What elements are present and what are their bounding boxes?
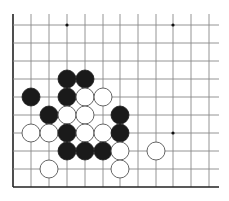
black-stone[interactable] [94, 142, 112, 160]
white-stone[interactable] [111, 142, 129, 160]
go-board[interactable] [0, 0, 229, 201]
black-stone[interactable] [111, 106, 129, 124]
black-stone[interactable] [22, 88, 40, 106]
white-stone[interactable] [111, 160, 129, 178]
black-stone[interactable] [40, 106, 58, 124]
white-stone[interactable] [58, 106, 76, 124]
black-stone[interactable] [58, 70, 76, 88]
white-stone[interactable] [94, 88, 112, 106]
stones-layer [22, 70, 165, 178]
white-stone[interactable] [94, 124, 112, 142]
star-point-icon [171, 23, 174, 26]
white-stone[interactable] [40, 160, 58, 178]
black-stone[interactable] [76, 142, 94, 160]
black-stone[interactable] [58, 124, 76, 142]
star-point-icon [65, 23, 68, 26]
white-stone[interactable] [76, 124, 94, 142]
white-stone[interactable] [22, 124, 40, 142]
black-stone[interactable] [58, 88, 76, 106]
white-stone[interactable] [76, 106, 94, 124]
black-stone[interactable] [58, 142, 76, 160]
black-stone[interactable] [111, 124, 129, 142]
black-stone[interactable] [76, 70, 94, 88]
white-stone[interactable] [76, 88, 94, 106]
white-stone[interactable] [147, 142, 165, 160]
star-point-icon [171, 131, 174, 134]
white-stone[interactable] [40, 124, 58, 142]
